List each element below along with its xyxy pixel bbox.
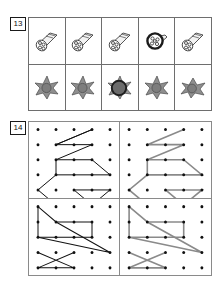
grid-dot [73, 173, 76, 176]
grid-dot [200, 220, 203, 223]
grid-dot [182, 205, 185, 208]
picture-cell-bundle-4[interactable] [139, 18, 176, 64]
grid-dot [128, 188, 131, 191]
flower-side-icon [68, 73, 98, 101]
picture-cell-flower-4[interactable] [139, 65, 176, 111]
grid-dot [73, 220, 76, 223]
grid-dot [182, 158, 185, 161]
bundle-front-icon [142, 28, 172, 54]
exercise-number-13: 13 [10, 17, 26, 31]
grid-dot [146, 128, 149, 131]
grid-dot [200, 188, 203, 191]
grid-dot [91, 158, 94, 161]
grid-dot [37, 188, 40, 191]
grid-dot [146, 266, 149, 269]
figure-polyline [38, 175, 56, 198]
flower-side-icon [142, 73, 172, 101]
grid-dot [73, 235, 76, 238]
dot-grid-panel-bottom-right[interactable] [120, 199, 211, 276]
dot-grid-panel-top-left[interactable] [29, 122, 120, 199]
grid-dot [164, 143, 167, 146]
grid-dot [109, 251, 112, 254]
grid-dot [109, 128, 112, 131]
grid-dot [37, 251, 40, 254]
grid-dot [146, 220, 149, 223]
figure-polyline [129, 206, 184, 237]
picture-cell-bundle-5[interactable] [175, 18, 211, 64]
grid-dot [91, 266, 94, 269]
grid-dot [146, 173, 149, 176]
bundle-side-icon [32, 28, 62, 54]
grid-dot [109, 235, 112, 238]
dot-grid-drawing-top-left [29, 122, 119, 198]
grid-dot [55, 205, 58, 208]
exercise-13-picture-table [28, 17, 212, 111]
grid-dot [128, 205, 131, 208]
grid-dot [73, 128, 76, 131]
dot-grid-panel-bottom-left[interactable] [29, 199, 120, 276]
flower-row [29, 65, 211, 111]
picture-cell-flower-1[interactable] [29, 65, 66, 111]
grid-dot [164, 251, 167, 254]
grid-dot [91, 173, 94, 176]
grid-dot [109, 188, 112, 191]
grid-dot [109, 143, 112, 146]
picture-cell-bundle-1[interactable] [29, 18, 66, 64]
grid-dot [182, 128, 185, 131]
grid-dot [91, 235, 94, 238]
grid-dot [37, 235, 40, 238]
grid-dot [37, 158, 40, 161]
grid-dot [128, 158, 131, 161]
grid-dot [55, 173, 58, 176]
figure-polyline [38, 206, 92, 237]
picture-cell-flower-5[interactable] [175, 65, 211, 111]
picture-cell-flower-2[interactable] [66, 65, 103, 111]
grid-dot [182, 266, 185, 269]
dot-grid-panel-top-right[interactable] [120, 122, 211, 199]
grid-dot [164, 158, 167, 161]
grid-dot [146, 188, 149, 191]
grid-dot [37, 220, 40, 223]
exercise-number-14: 14 [10, 121, 26, 135]
grid-dot [73, 205, 76, 208]
grid-dot [164, 128, 167, 131]
grid-dot [146, 235, 149, 238]
grid-dot [109, 266, 112, 269]
grid-dot [182, 251, 185, 254]
grid-dot [146, 158, 149, 161]
grid-dot [164, 173, 167, 176]
dot-grid-drawing-top-right [120, 122, 211, 198]
grid-dot [109, 173, 112, 176]
bundle-side-icon [68, 28, 98, 54]
flower-side-icon [178, 73, 208, 101]
flower-side-icon [32, 73, 62, 101]
grid-dot [200, 158, 203, 161]
grid-dot [109, 158, 112, 161]
grid-dot [146, 205, 149, 208]
grid-dot [109, 205, 112, 208]
grid-dot [91, 220, 94, 223]
grid-dot [200, 205, 203, 208]
picture-cell-flower-3[interactable] [102, 65, 139, 111]
figure-polyline [129, 175, 147, 198]
grid-dot [55, 220, 58, 223]
grid-dot [73, 266, 76, 269]
picture-cell-bundle-3[interactable] [102, 18, 139, 64]
grid-dot [146, 251, 149, 254]
grid-dot [146, 143, 149, 146]
flower-front-icon [105, 73, 135, 101]
grid-dot [109, 220, 112, 223]
picture-cell-bundle-2[interactable] [66, 18, 103, 64]
grid-dot [37, 143, 40, 146]
worksheet-page: 13 [0, 0, 224, 286]
grid-dot [91, 251, 94, 254]
grid-dot [73, 158, 76, 161]
grid-dot [200, 128, 203, 131]
grid-dot [164, 235, 167, 238]
grid-dot [91, 188, 94, 191]
grid-dot [200, 266, 203, 269]
figure-polyline [147, 130, 202, 175]
grid-dot [91, 143, 94, 146]
grid-dot [37, 205, 40, 208]
grid-dot [128, 220, 131, 223]
